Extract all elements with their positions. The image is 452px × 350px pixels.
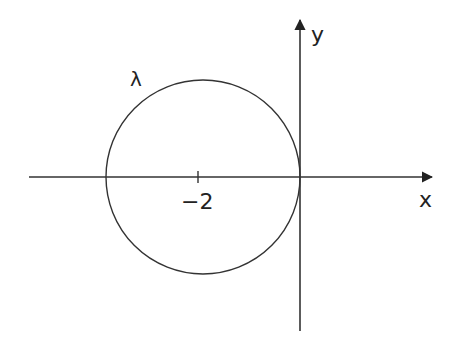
diagram-canvas: −2 λ x y — [0, 0, 452, 350]
x-axis-label: x — [419, 187, 432, 212]
y-axis-label: y — [311, 22, 324, 47]
circle-label: λ — [130, 67, 142, 91]
coordinate-plane: −2 λ x y — [0, 0, 452, 350]
center-tick-label: −2 — [181, 189, 213, 214]
